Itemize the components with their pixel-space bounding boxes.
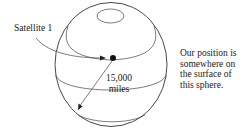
upper-band-back [66, 23, 156, 31]
distance-label: 15,000 miles [104, 73, 134, 94]
satellite-pointer-line [36, 38, 102, 58]
note-line: somewhere on [180, 59, 236, 70]
note-line: this sphere. [180, 80, 236, 91]
note-line: Our position is [180, 48, 236, 59]
satellite-dot [110, 55, 116, 61]
upper-latitude-band [66, 26, 156, 60]
satellite-label: Satellite 1 [14, 23, 52, 34]
radius-arrowhead [78, 104, 83, 111]
top-small-ellipse [97, 9, 124, 23]
distance-unit: miles [104, 84, 134, 95]
note-line: the surface of [180, 69, 236, 80]
position-note: Our position is somewhere on the surface… [180, 48, 236, 90]
sphere-outline [55, 3, 167, 127]
distance-value: 15,000 [104, 73, 134, 84]
